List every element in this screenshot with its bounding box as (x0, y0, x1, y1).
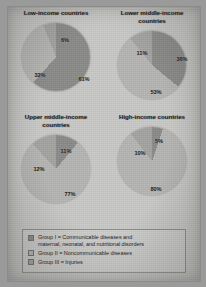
figure-panel: Low-income countries 61% 32% 6% Lower mi… (0, 0, 206, 287)
pie-slice-label: 12% (33, 166, 44, 172)
pie-chart-high-income: 5% 80% 10% (118, 127, 186, 195)
pie-wrap-low-income: 61% 32% 6% (22, 23, 90, 91)
pie-panel-lower-middle-income: Lower middle-income countries 36% 53% 11… (104, 9, 200, 117)
pie-chart-upper-middle-income: 11% 77% 12% (22, 135, 90, 203)
legend-swatch-icon (28, 235, 34, 241)
pie-title-upper-middle-income: Upper middle-income countries (10, 113, 102, 129)
pie-labels-high-income: 5% 80% 10% (118, 127, 186, 195)
pie-wrap-upper-middle-income: 11% 77% 12% (22, 135, 90, 203)
pie-slice-label: 32% (34, 72, 45, 78)
pie-slice-label: 80% (150, 186, 161, 192)
pie-labels-low-income: 61% 32% 6% (22, 23, 90, 91)
pie-wrap-lower-middle-income: 36% 53% 11% (118, 31, 186, 99)
pie-panel-high-income: High-income countries 5% 80% 10% (104, 113, 200, 221)
pie-title-lower-middle-income: Lower middle-income countries (106, 9, 198, 25)
pie-slice-label: 53% (150, 89, 161, 95)
pie-title-high-income: High-income countries (106, 113, 198, 121)
pie-chart-lower-middle-income: 36% 53% 11% (118, 31, 186, 99)
pie-labels-lower-middle-income: 36% 53% 11% (118, 31, 186, 99)
pie-slice-label: 36% (176, 56, 187, 62)
legend-swatch-icon (28, 259, 34, 265)
pie-slice-label: 61% (78, 76, 89, 82)
legend-item-group-i: Group I = Communicable diseases and mate… (28, 234, 181, 247)
chart-legend: Group I = Communicable diseases and mate… (22, 229, 186, 273)
legend-label-group-iii: Group III = Injuries (38, 259, 83, 266)
legend-swatch-icon (28, 250, 34, 256)
pie-chart-grid: Low-income countries 61% 32% 6% Lower mi… (8, 7, 200, 223)
pie-panel-low-income: Low-income countries 61% 32% 6% (8, 9, 104, 117)
pie-slice-label: 6% (61, 37, 69, 43)
legend-label-group-i: Group I = Communicable diseases and mate… (38, 234, 144, 247)
pie-slice-label: 10% (134, 150, 145, 156)
pie-labels-upper-middle-income: 11% 77% 12% (22, 135, 90, 203)
legend-item-group-ii: Group II = Noncommunicable diseases (28, 250, 181, 257)
legend-label-group-ii: Group II = Noncommunicable diseases (38, 250, 132, 257)
pie-chart-low-income: 61% 32% 6% (22, 23, 90, 91)
pie-panel-upper-middle-income: Upper middle-income countries 11% 77% 12… (8, 113, 104, 221)
pie-title-low-income: Low-income countries (10, 9, 102, 17)
legend-item-group-iii: Group III = Injuries (28, 259, 181, 266)
pie-slice-label: 77% (64, 191, 75, 197)
scanned-page: Low-income countries 61% 32% 6% Lower mi… (7, 6, 201, 282)
pie-slice-label: 11% (137, 50, 148, 56)
pie-slice-label: 5% (155, 138, 163, 144)
pie-wrap-high-income: 5% 80% 10% (118, 127, 186, 195)
pie-slice-label: 11% (61, 148, 72, 154)
